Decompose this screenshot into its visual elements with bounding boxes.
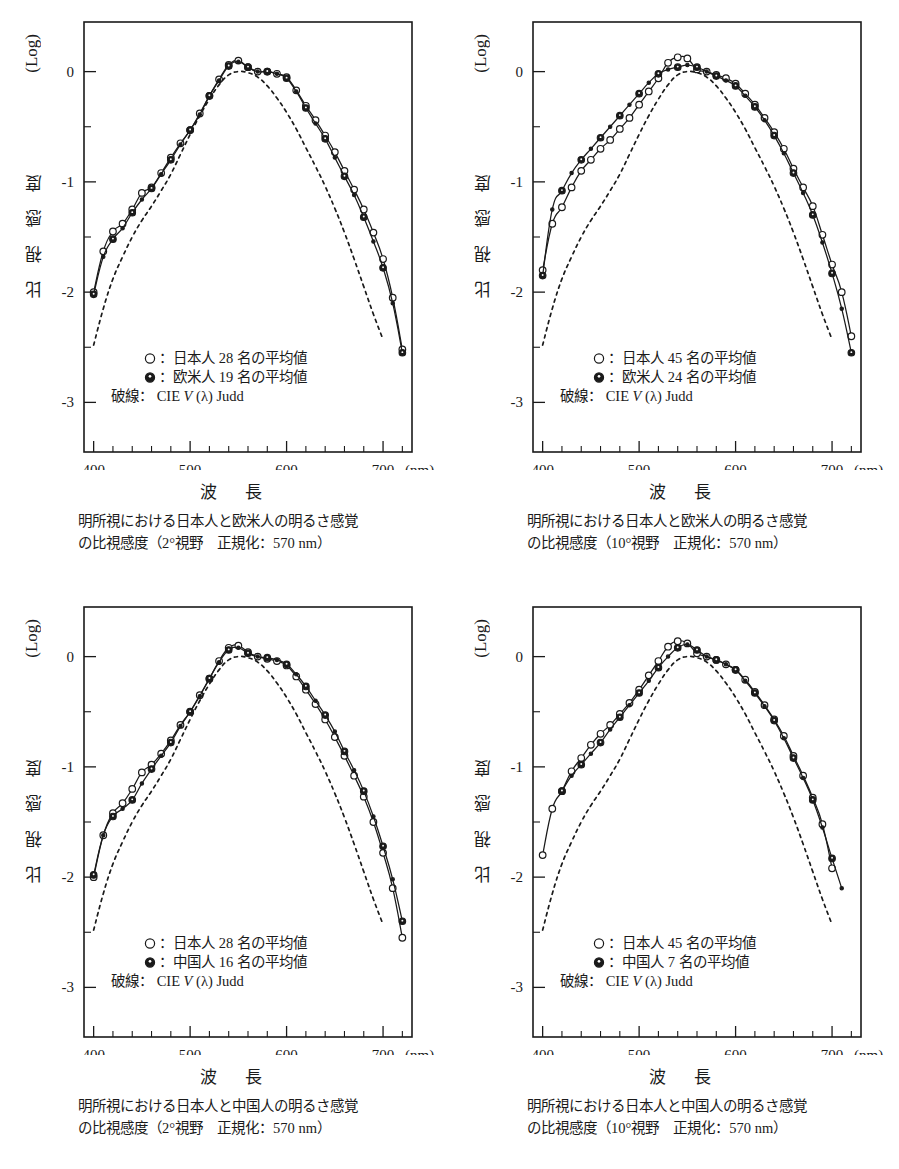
data-point-filled xyxy=(705,655,708,658)
data-point-open xyxy=(568,184,575,191)
data-point-filled-highlight xyxy=(286,663,288,665)
data-point-filled-highlight xyxy=(401,920,403,922)
y-tick-label: -1 xyxy=(511,759,524,775)
data-point-filled xyxy=(608,728,611,731)
data-point-filled-highlight xyxy=(561,790,563,792)
x-tick-label: 600 xyxy=(275,462,298,470)
data-point-filled-highlight xyxy=(189,710,191,712)
data-point-filled xyxy=(295,90,298,93)
data-point-filled xyxy=(391,878,394,881)
y-tick-label: -2 xyxy=(511,869,524,885)
y-tick-label: -3 xyxy=(62,979,75,995)
y-tick-label: 0 xyxy=(67,649,75,665)
legend-label-series-1: ：日本人 45 名の平均値 xyxy=(608,935,756,951)
cie-reference-curve xyxy=(94,71,383,345)
data-point-filled-highlight xyxy=(793,757,795,759)
x-axis-unit-label: (nm) xyxy=(854,462,883,470)
data-point-filled xyxy=(237,646,240,649)
data-point-filled xyxy=(801,776,804,779)
data-point-open xyxy=(665,59,672,66)
y-tick-label: 0 xyxy=(516,649,524,665)
y-tick-label: -1 xyxy=(62,174,75,190)
y-tick-label: -2 xyxy=(62,284,75,300)
y-axis-unit-label-top-left: (Log) xyxy=(22,34,42,73)
data-point-filled-highlight xyxy=(324,137,326,139)
x-axis-title-bottom-left: 波 長 xyxy=(200,1063,274,1088)
data-point-filled-highlight xyxy=(305,106,307,108)
data-point-filled-highlight xyxy=(344,750,346,752)
x-tick-label: 500 xyxy=(179,1047,202,1055)
data-point-filled-highlight xyxy=(715,74,717,76)
x-tick-label: 500 xyxy=(628,1047,651,1055)
data-point-filled-highlight xyxy=(382,266,384,268)
legend-label-series-2: ：中国人 16 名の平均値 xyxy=(159,954,307,970)
data-point-filled xyxy=(140,198,143,201)
data-point-open xyxy=(129,786,136,793)
x-axis-unit-label: (nm) xyxy=(405,1047,434,1055)
legend-label-series-2: ：欧米人 19 名の平均値 xyxy=(159,369,307,385)
x-tick-label: 700 xyxy=(821,462,844,470)
legend-label-cie: 破線： CIE V (λ) Judd xyxy=(111,388,245,405)
data-point-open xyxy=(674,54,681,61)
data-point-filled xyxy=(295,673,298,676)
x-axis-title-top-right: 波 長 xyxy=(649,478,723,503)
panel-bottom-left: 400500600700(nm)0-1-2-3：日本人 28 名の平均値：中国人… xyxy=(0,585,449,1169)
x-tick-label: 700 xyxy=(372,462,395,470)
data-point-filled-highlight xyxy=(619,716,621,718)
y-tick-label: 0 xyxy=(67,64,75,80)
chart-svg-bottom-right: 400500600700(nm)0-1-2-3：日本人 45 名の平均値：中国人… xyxy=(449,585,899,1055)
data-point-filled xyxy=(570,171,573,174)
x-tick-label: 600 xyxy=(724,1047,747,1055)
plot-area-top-right: 400500600700(nm)0-1-2-3：日本人 45 名の平均値：欧米人… xyxy=(449,0,899,470)
data-point-open xyxy=(559,204,566,211)
data-point-filled xyxy=(551,208,554,211)
y-tick-label: 0 xyxy=(516,64,524,80)
data-point-filled xyxy=(333,730,336,733)
x-tick-label: 500 xyxy=(179,462,202,470)
legend-marker-open-circle-icon xyxy=(145,354,154,363)
data-point-filled xyxy=(821,826,824,829)
data-curve xyxy=(94,645,403,938)
data-curve xyxy=(562,644,842,888)
data-point-filled xyxy=(840,886,843,889)
data-point-filled xyxy=(782,152,785,155)
data-point-filled-highlight xyxy=(754,105,756,107)
data-curve xyxy=(94,60,403,349)
data-point-open xyxy=(684,55,691,62)
data-point-filled-highlight xyxy=(112,238,114,240)
data-point-filled xyxy=(608,125,611,128)
data-point-filled-highlight xyxy=(324,714,326,716)
data-point-open xyxy=(597,145,604,152)
data-point-filled-highlight xyxy=(401,351,403,353)
data-point-filled-highlight xyxy=(831,272,833,274)
data-point-open xyxy=(549,805,556,812)
data-point-filled-highlight xyxy=(793,172,795,174)
data-point-filled xyxy=(275,72,278,75)
data-point-filled xyxy=(744,679,747,682)
y-axis-unit-label-bottom-right: (Log) xyxy=(471,619,491,658)
data-point-filled-highlight xyxy=(638,691,640,693)
y-tick-label: -3 xyxy=(511,394,524,410)
data-point-filled-highlight xyxy=(305,685,307,687)
x-axis-unit-label: (nm) xyxy=(405,462,434,470)
data-point-filled xyxy=(121,226,124,229)
data-point-open xyxy=(588,157,595,164)
y-tick-label: -2 xyxy=(511,284,524,300)
data-point-filled xyxy=(724,79,727,82)
legend-label-cie: 破線： CIE V (λ) Judd xyxy=(111,973,245,990)
data-point-filled xyxy=(121,807,124,810)
data-point-filled-highlight xyxy=(266,656,268,658)
data-point-filled-highlight xyxy=(131,798,133,800)
data-point-filled xyxy=(628,103,631,106)
data-point-filled xyxy=(801,191,804,194)
data-point-filled xyxy=(256,655,259,658)
data-point-filled-highlight xyxy=(754,691,756,693)
data-point-filled-highlight xyxy=(228,65,230,67)
x-axis-unit-label: (nm) xyxy=(854,1047,883,1055)
x-tick-label: 600 xyxy=(275,1047,298,1055)
data-point-filled xyxy=(391,301,394,304)
y-axis-title-top-right: 比 視 感 度 xyxy=(471,168,496,298)
legend-label-series-2: ：欧米人 24 名の平均値 xyxy=(608,369,756,385)
caption-top-right: 明所視における日本人と欧米人の明るさ感覚 の比視感度（10°視野 正規化：570… xyxy=(527,510,887,555)
data-point-open xyxy=(626,115,633,122)
